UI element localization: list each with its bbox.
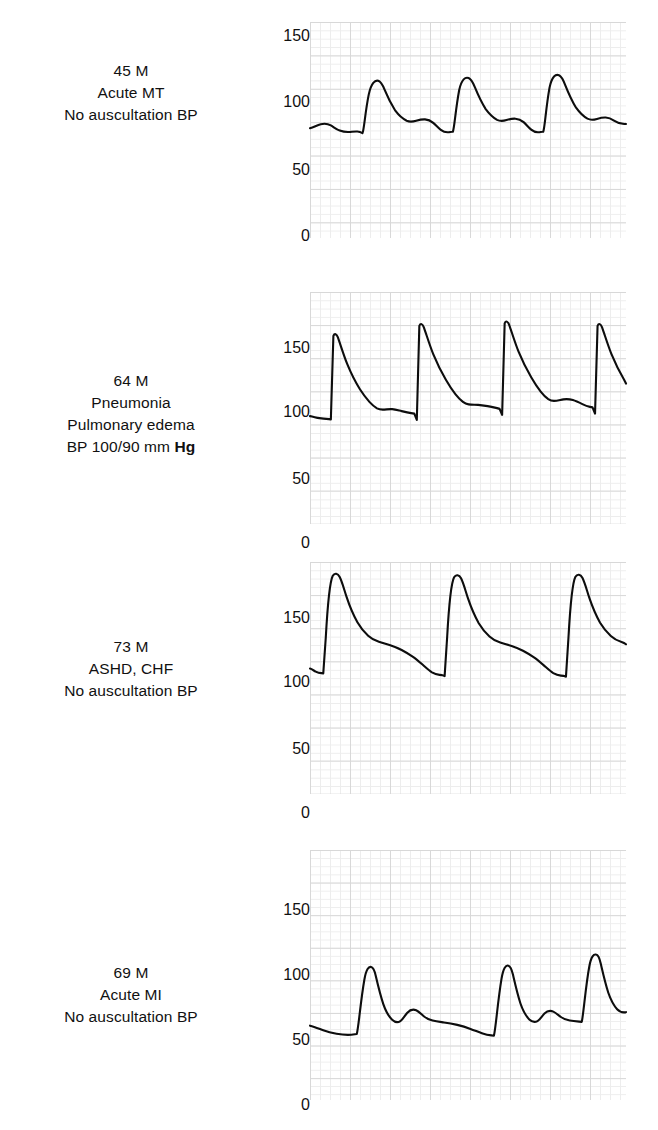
panel-4-trace — [310, 850, 626, 1100]
panel-2-trace — [310, 292, 626, 524]
panel-4: 69 M Acute MI No auscultation BP 150 100… — [0, 840, 658, 1112]
panel-1-caption-line-1: 45 M — [0, 60, 262, 82]
panel-2-bp-value: BP 100/90 mm — [67, 438, 175, 455]
panel-2-caption-line-1: 64 M — [0, 370, 262, 392]
panel-2-ytick-150: 150 — [264, 340, 310, 356]
panel-2-caption-line-3: Pulmonary edema — [0, 414, 262, 436]
panel-1-caption-line-3: No auscultation BP — [0, 104, 262, 126]
panel-2-ytick-100: 100 — [264, 404, 310, 420]
panel-3-plot: 150 100 50 0 — [264, 562, 630, 794]
panel-2-plot: 150 100 50 0 — [264, 292, 630, 524]
panel-4-caption: 69 M Acute MI No auscultation BP — [0, 962, 262, 1028]
panel-1-plot-area — [310, 22, 626, 238]
panel-4-y-axis: 150 100 50 0 — [264, 850, 310, 1100]
panel-4-caption-line-1: 69 M — [0, 962, 262, 984]
panel-4-ytick-0: 0 — [264, 1097, 310, 1113]
panel-4-ytick-150: 150 — [264, 902, 310, 918]
panel-2-plot-area — [310, 292, 626, 524]
panel-4-waveform-path — [310, 954, 626, 1035]
panel-3-caption: 73 M ASHD, CHF No auscultation BP — [0, 636, 262, 702]
panel-1-ytick-150: 150 — [264, 28, 310, 44]
panel-3-ytick-50: 50 — [264, 741, 310, 757]
panel-2-y-axis: 150 100 50 0 — [264, 292, 310, 524]
panel-1-trace — [310, 22, 626, 238]
panel-1: 45 M Acute MT No auscultation BP 150 100… — [0, 0, 658, 260]
panel-3-caption-line-3: No auscultation BP — [0, 680, 262, 702]
panel-3-y-axis: 150 100 50 0 — [264, 562, 310, 794]
panel-3-trace — [310, 562, 626, 794]
panel-2-ytick-50: 50 — [264, 471, 310, 487]
panel-3: 73 M ASHD, CHF No auscultation BP 150 10… — [0, 548, 658, 813]
panel-3-waveform-path — [310, 574, 626, 677]
panel-4-caption-line-3: No auscultation BP — [0, 1006, 262, 1028]
panel-4-plot: 150 100 50 0 — [264, 850, 630, 1100]
panel-1-caption: 45 M Acute MT No auscultation BP — [0, 60, 262, 126]
panel-2-caption: 64 M Pneumonia Pulmonary edema BP 100/90… — [0, 370, 262, 458]
panel-1-y-axis: 150 100 50 0 — [264, 22, 310, 238]
panel-4-ytick-100: 100 — [264, 967, 310, 983]
panel-1-plot: 150 100 50 0 — [264, 22, 630, 238]
panel-2: 64 M Pneumonia Pulmonary edema BP 100/90… — [0, 270, 658, 535]
panel-4-plot-area — [310, 850, 626, 1100]
panel-2-bp-units: Hg — [174, 438, 195, 455]
figure-arterial-pressure-waveforms: 45 M Acute MT No auscultation BP 150 100… — [0, 0, 658, 1130]
panel-4-ytick-50: 50 — [264, 1032, 310, 1048]
panel-3-ytick-150: 150 — [264, 610, 310, 626]
panel-3-ytick-0: 0 — [264, 805, 310, 821]
panel-1-waveform-path — [310, 75, 626, 133]
panel-3-caption-line-2: ASHD, CHF — [0, 658, 262, 680]
panel-3-caption-line-1: 73 M — [0, 636, 262, 658]
panel-2-waveform-path — [310, 322, 626, 420]
panel-3-ytick-100: 100 — [264, 674, 310, 690]
panel-3-plot-area — [310, 562, 626, 794]
panel-2-caption-line-4: BP 100/90 mm Hg — [0, 436, 262, 458]
panel-4-caption-line-2: Acute MI — [0, 984, 262, 1006]
panel-2-caption-line-2: Pneumonia — [0, 392, 262, 414]
panel-1-ytick-100: 100 — [264, 94, 310, 110]
panel-1-ytick-0: 0 — [264, 228, 310, 244]
panel-1-caption-line-2: Acute MT — [0, 82, 262, 104]
panel-1-ytick-50: 50 — [264, 162, 310, 178]
